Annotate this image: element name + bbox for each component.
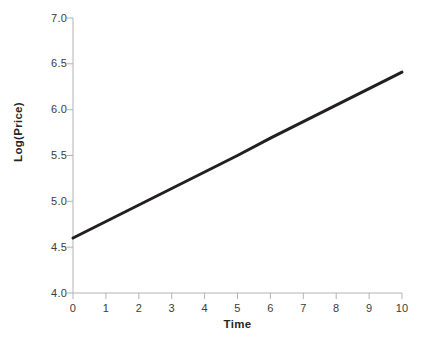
x-tick-label: 6 [258, 303, 282, 314]
x-tick-label: 9 [357, 303, 381, 314]
x-tick-label: 1 [94, 303, 118, 314]
x-tick-label: 7 [291, 303, 315, 314]
x-tick-label: 4 [193, 303, 217, 314]
chart-container: 4.0 4.5 5.0 5.5 6.0 6.5 7.0 0 1 2 3 4 5 … [0, 0, 430, 340]
x-tick-label: 2 [127, 303, 151, 314]
x-tick-label: 10 [390, 303, 414, 314]
x-tick-label: 0 [61, 303, 85, 314]
x-tick-label: 8 [324, 303, 348, 314]
x-axis-tick-labels: 0 1 2 3 4 5 6 7 8 9 10 [0, 0, 430, 340]
x-axis-title: Time [73, 318, 402, 330]
x-tick-label: 3 [160, 303, 184, 314]
x-tick-label: 5 [226, 303, 250, 314]
y-axis-title: Log(Price) [12, 92, 24, 172]
